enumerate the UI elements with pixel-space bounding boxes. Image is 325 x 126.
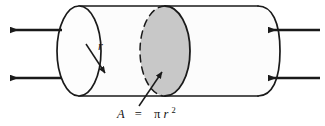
radius-label: r: [98, 39, 103, 53]
area-equation-lhs: A: [116, 107, 125, 121]
cylinder-left-face: [57, 6, 101, 96]
left-load-arrows: [10, 30, 62, 78]
cylinder-cross-section-figure: r A = π r 2: [0, 0, 325, 126]
left-face-ellipse: [57, 6, 101, 96]
area-equation: A = π r 2: [116, 105, 176, 121]
area-equation-r: r: [163, 107, 168, 121]
cross-section: [140, 6, 190, 96]
area-equation-text: A = π r 2: [116, 105, 176, 121]
figure-canvas: r A = π r 2: [0, 0, 325, 126]
area-equation-exponent: 2: [171, 105, 175, 115]
area-equation-equals: =: [135, 107, 142, 121]
area-equation-pi: π: [154, 107, 161, 121]
